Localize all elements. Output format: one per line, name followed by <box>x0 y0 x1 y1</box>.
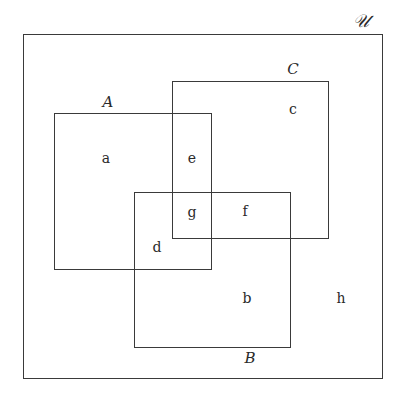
venn-diagram: 𝒰 A C B a e c g f d b h <box>0 0 402 395</box>
set-c-label: C <box>287 62 298 77</box>
set-a-label: A <box>103 95 114 110</box>
region-f-label: f <box>242 204 247 218</box>
region-g-label: g <box>188 205 197 219</box>
region-h-label: h <box>336 291 345 305</box>
universe-label: 𝒰 <box>353 12 369 30</box>
region-a-label: a <box>102 151 110 165</box>
set-b-label: B <box>244 351 255 366</box>
set-b-box <box>134 192 291 348</box>
region-c-label: c <box>289 102 297 116</box>
region-e-label: e <box>188 151 196 165</box>
region-b-label: b <box>243 291 252 305</box>
region-d-label: d <box>153 240 162 254</box>
